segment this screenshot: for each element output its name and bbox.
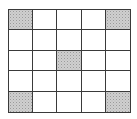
grid-cell [33, 30, 57, 50]
shaded-cell [57, 51, 81, 71]
grid-cell [82, 92, 106, 112]
grid-cell [82, 30, 106, 50]
grid-cell [9, 51, 33, 71]
grid-cell [57, 92, 81, 112]
grid-cell [106, 51, 130, 71]
grid-cell [33, 71, 57, 91]
shaded-cell [106, 92, 130, 112]
grid-cell [33, 51, 57, 71]
grid-cell [33, 92, 57, 112]
grid-cell [57, 10, 81, 30]
shaded-cell [106, 10, 130, 30]
grid-diagram [8, 9, 131, 113]
grid-cell [9, 71, 33, 91]
grid-cell [57, 30, 81, 50]
grid-cell [82, 10, 106, 30]
grid-cell [106, 30, 130, 50]
shaded-cell [9, 92, 33, 112]
grid-cell [82, 71, 106, 91]
grid-cell [57, 71, 81, 91]
grid-cell [82, 51, 106, 71]
shaded-cell [9, 10, 33, 30]
grid-cell [9, 30, 33, 50]
grid-cell [33, 10, 57, 30]
grid-cell [106, 71, 130, 91]
